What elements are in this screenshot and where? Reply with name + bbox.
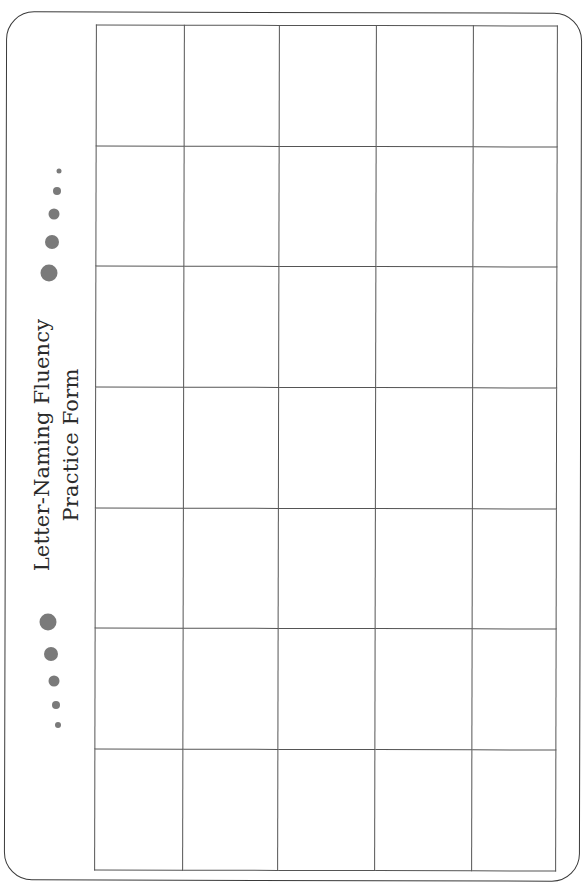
form-title-line-1: Letter-Naming Fluency	[28, 319, 57, 572]
grid-cell[interactable]	[184, 25, 279, 146]
grid-cell[interactable]	[96, 146, 184, 267]
decorative-dot-icon	[49, 676, 60, 687]
title-sidebar: Letter-Naming Fluency Practice Form	[0, 0, 95, 891]
grid-cell[interactable]	[473, 26, 557, 147]
grid-cell[interactable]	[375, 508, 472, 629]
grid-cell[interactable]	[183, 749, 278, 870]
grid-row	[95, 628, 556, 750]
grid-cell[interactable]	[183, 508, 278, 629]
grid-cell[interactable]	[278, 387, 375, 508]
decorative-dot-icon	[40, 614, 57, 631]
grid-row	[96, 266, 557, 388]
grid-cell[interactable]	[183, 387, 278, 508]
grid-cell[interactable]	[96, 25, 184, 146]
grid-cell[interactable]	[376, 146, 473, 267]
grid-cell[interactable]	[95, 508, 183, 629]
grid-cell[interactable]	[473, 146, 557, 267]
decorative-dot-icon	[57, 169, 62, 174]
decorative-dot-icon	[55, 722, 61, 728]
grid-cell[interactable]	[472, 509, 556, 630]
grid-cell[interactable]	[376, 26, 473, 147]
grid-cell[interactable]	[278, 629, 375, 750]
grid-cell[interactable]	[183, 629, 278, 750]
form-title: Letter-Naming Fluency Practice Form	[28, 319, 86, 572]
decorative-dot-icon	[53, 187, 61, 195]
grid-cell[interactable]	[96, 266, 184, 387]
grid-row	[95, 508, 556, 630]
grid-cell[interactable]	[184, 146, 279, 267]
grid-cell[interactable]	[279, 267, 376, 388]
grid-cell[interactable]	[279, 25, 376, 146]
grid-cell[interactable]	[279, 146, 376, 267]
grid-row	[96, 25, 557, 147]
grid-cell[interactable]	[278, 508, 375, 629]
decorative-dot-icon	[49, 209, 60, 220]
grid-cell[interactable]	[375, 388, 472, 509]
grid-cell[interactable]	[95, 749, 183, 870]
grid-row	[96, 146, 557, 268]
decorative-dot-icon	[41, 265, 58, 282]
grid-cell[interactable]	[472, 388, 556, 509]
grid-cell[interactable]	[278, 750, 375, 871]
decorative-dot-icon	[52, 701, 60, 709]
grid-cell[interactable]	[375, 750, 472, 871]
practice-grid	[94, 25, 558, 872]
grid-cell[interactable]	[376, 267, 473, 388]
decorative-dot-icon	[44, 647, 58, 661]
grid-cell[interactable]	[473, 267, 557, 388]
grid-row	[95, 749, 556, 871]
grid-cell[interactable]	[95, 628, 183, 749]
grid-row	[95, 387, 556, 509]
grid-cell[interactable]	[95, 387, 183, 508]
grid-cell[interactable]	[184, 267, 279, 388]
grid-cell[interactable]	[472, 750, 556, 871]
grid-cell[interactable]	[375, 629, 472, 750]
grid-cell[interactable]	[472, 629, 556, 750]
form-title-line-2: Practice Form	[57, 319, 86, 572]
decorative-dot-icon	[45, 235, 59, 249]
